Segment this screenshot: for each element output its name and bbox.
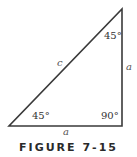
horizontal-leg-label: a bbox=[63, 127, 69, 137]
angle-top-label: 45° bbox=[104, 31, 122, 41]
triangle-outline bbox=[9, 9, 122, 126]
hypotenuse-label: c bbox=[57, 58, 63, 68]
angle-bottom-right-label: 90° bbox=[101, 111, 119, 121]
angle-bottom-left-label: 45° bbox=[32, 111, 50, 121]
vertical-leg-label: a bbox=[126, 62, 132, 72]
figure-7-15: 45° 45° 90° c a a FIGURE 7-15 bbox=[0, 0, 137, 157]
figure-caption: FIGURE 7-15 bbox=[0, 142, 137, 153]
